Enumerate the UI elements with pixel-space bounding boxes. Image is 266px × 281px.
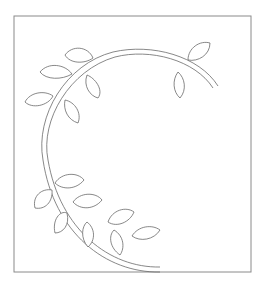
leaf <box>25 93 53 106</box>
leaf <box>40 65 72 78</box>
leaf-3 <box>65 48 93 62</box>
vine-stem <box>42 49 218 272</box>
leaf <box>174 72 184 98</box>
leaves <box>25 42 210 255</box>
leaf <box>73 194 102 208</box>
applique-pattern-diagram <box>0 0 266 281</box>
leaf <box>108 209 134 224</box>
leaf <box>34 190 52 209</box>
leaf <box>188 42 210 60</box>
leaf <box>86 75 100 98</box>
leaf <box>54 212 67 233</box>
leaf <box>111 230 123 255</box>
leaf <box>65 100 80 123</box>
leaf <box>55 174 84 188</box>
pattern-canvas <box>0 0 266 281</box>
